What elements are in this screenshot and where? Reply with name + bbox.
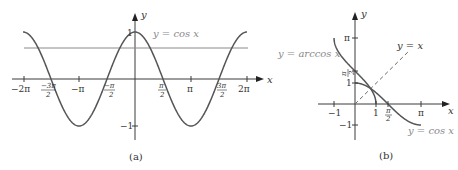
panel-b: x y −1 1 π 2 π π π 2 1 −1 [277, 8, 454, 161]
svg-text:2: 2 [385, 115, 391, 123]
svg-text:π: π [340, 71, 348, 77]
identity-line-label: y = x [396, 40, 423, 51]
x-tick-label: 1 [373, 108, 379, 118]
x-axis-label: x [448, 105, 454, 116]
arccos-curve-label: y = arccos x [277, 48, 341, 59]
y-tick-label: 1 [346, 78, 352, 88]
svg-text:2: 2 [159, 91, 165, 99]
cos-curve-label: y = cos x [407, 125, 454, 136]
svg-text:−π: −π [104, 82, 115, 90]
svg-text:2: 2 [108, 91, 114, 99]
x-tick-label-frac: −π 2 [104, 82, 115, 99]
x-tick-label-frac: −3π 2 [41, 82, 56, 99]
x-tick-label: 2π [238, 84, 250, 94]
x-tick-label: −1 [328, 108, 341, 118]
y-axis-label: y [140, 9, 147, 20]
svg-text:π: π [385, 107, 391, 115]
identity-line [355, 50, 410, 104]
y-tick-label: −1 [120, 121, 133, 131]
x-tick-label-frac: π 2 [385, 107, 392, 123]
caption-b: (b) [379, 150, 393, 161]
y-tick-label: −1 [339, 120, 352, 130]
y-axis-arrow-icon [132, 13, 138, 21]
x-tick-label: −π [71, 84, 85, 94]
x-axis-arrow-icon [256, 76, 264, 82]
y-tick-label: 1 [127, 28, 133, 38]
svg-text:π: π [158, 82, 164, 90]
x-tick-label: π [418, 108, 424, 118]
caption-a: (a) [129, 151, 143, 162]
y-axis-label: y [360, 8, 367, 19]
panel-a: x y −2π −3π 2 −π −π 2 π 2 [11, 9, 273, 162]
x-tick-label-frac: 3π 2 [217, 82, 227, 99]
x-axis-label: x [267, 74, 273, 85]
svg-text:−3π: −3π [41, 82, 56, 90]
y-axis-arrow-icon [352, 12, 358, 20]
svg-text:2: 2 [348, 70, 356, 76]
svg-text:3π: 3π [217, 82, 226, 90]
cos-curve-label: y = cos x [152, 28, 199, 39]
y-tick-label: π [344, 33, 350, 43]
svg-text:2: 2 [219, 91, 225, 99]
figure: x y −2π −3π 2 −π −π 2 π 2 [0, 0, 458, 170]
x-tick-label: −2π [11, 84, 30, 94]
svg-text:2: 2 [45, 91, 51, 99]
x-tick-label: π [187, 84, 193, 94]
